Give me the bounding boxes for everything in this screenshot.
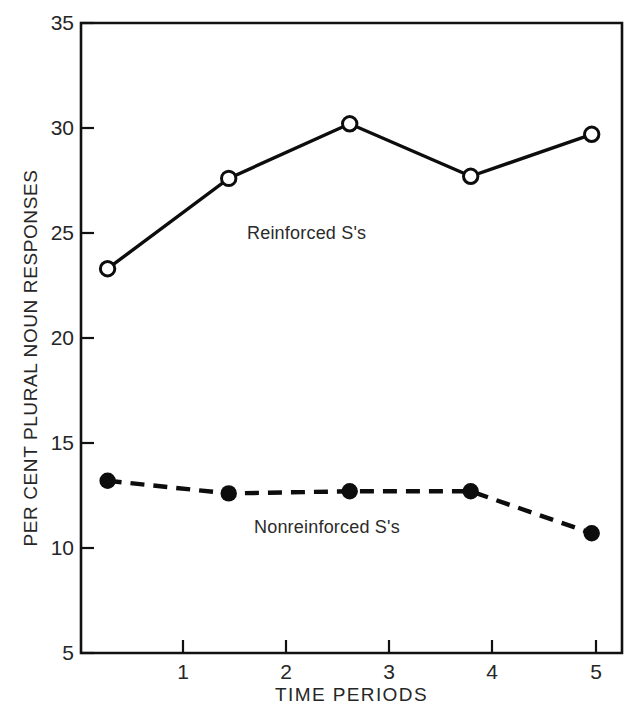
data-point bbox=[463, 483, 479, 499]
series-reinforced-markers bbox=[100, 117, 599, 276]
x-tick-label: 4 bbox=[472, 660, 512, 684]
x-axis-ticks bbox=[183, 640, 596, 653]
data-point bbox=[343, 117, 357, 131]
chart-figure: 35 30 25 20 15 10 5 1 2 3 4 5 PER CENT P… bbox=[0, 0, 635, 716]
data-point bbox=[585, 127, 599, 141]
data-point bbox=[342, 483, 358, 499]
series-label-nonreinforced: Nonreinforced S's bbox=[254, 517, 400, 538]
data-point bbox=[221, 485, 237, 501]
series-reinforced bbox=[100, 117, 599, 276]
data-point bbox=[100, 262, 114, 276]
data-point bbox=[464, 169, 478, 183]
y-axis-title-wrap: PER CENT PLURAL NOUN RESPONSES bbox=[8, 0, 54, 716]
data-point bbox=[99, 473, 115, 489]
series-reinforced-line bbox=[108, 124, 592, 269]
x-tick-label: 3 bbox=[369, 660, 409, 684]
plot-area bbox=[0, 0, 635, 716]
y-axis-ticks bbox=[81, 23, 94, 653]
data-point bbox=[584, 525, 600, 541]
x-axis-title: TIME PERIODS bbox=[81, 684, 622, 706]
y-axis-title: PER CENT PLURAL NOUN RESPONSES bbox=[8, 0, 54, 716]
data-point bbox=[222, 171, 236, 185]
x-tick-label: 2 bbox=[266, 660, 306, 684]
x-tick-label: 1 bbox=[163, 660, 203, 684]
series-label-reinforced: Reinforced S's bbox=[247, 223, 366, 244]
x-tick-label: 5 bbox=[576, 660, 616, 684]
